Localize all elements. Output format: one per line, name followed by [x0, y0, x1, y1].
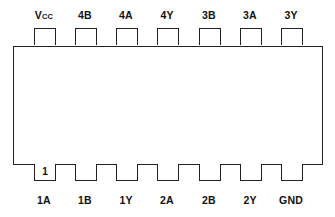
pin-label-gnd: GND — [271, 194, 311, 206]
pin-4 — [157, 164, 179, 181]
pin-11 — [157, 28, 179, 45]
pin-12 — [116, 28, 138, 45]
pin-8 — [281, 28, 303, 45]
ic-body — [13, 46, 323, 165]
pin-1-marker: 1 — [35, 166, 55, 177]
pin-label-2b: 2B — [189, 194, 229, 206]
pin-1: 1 — [34, 164, 56, 181]
pin-label-3a: 3A — [230, 9, 270, 21]
pin-label-4b: 4B — [65, 9, 105, 21]
pin-label-1y: 1Y — [106, 194, 146, 206]
pin-13 — [75, 28, 97, 45]
pin-5 — [199, 164, 221, 181]
pin-7 — [281, 164, 303, 181]
pin-10 — [199, 28, 221, 45]
pin-label-4y: 4Y — [147, 9, 187, 21]
pin-label-vcc: VCC — [24, 9, 64, 21]
pin-label-1a: 1A — [24, 194, 64, 206]
pin-9 — [240, 28, 262, 45]
pin-14 — [34, 28, 56, 45]
pin-label-2y: 2Y — [230, 194, 270, 206]
pin-label-4a: 4A — [106, 9, 146, 21]
pin-label-1b: 1B — [65, 194, 105, 206]
pin-3 — [116, 164, 138, 181]
pin-label-3y: 3Y — [271, 9, 311, 21]
pin-6 — [240, 164, 262, 181]
pin-2 — [75, 164, 97, 181]
pin-label-2a: 2A — [147, 194, 187, 206]
pin-label-3b: 3B — [189, 9, 229, 21]
